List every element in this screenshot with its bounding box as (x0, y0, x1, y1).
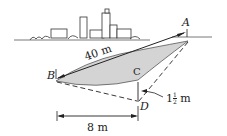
distance-8m-label: 8 m (87, 122, 108, 133)
lake-shape (56, 41, 188, 85)
diagram-canvas: A B C D 40 m 112 m 8 m (0, 0, 227, 136)
arrowhead-a-icon (177, 32, 186, 37)
arrowhead-left-icon (57, 114, 64, 118)
distance-cd-label: 112 m (166, 92, 191, 105)
diagram-drawing (0, 0, 227, 136)
point-b-label: B (47, 70, 55, 81)
city-skyline-icon (30, 9, 140, 40)
arrowhead-right-icon (131, 114, 138, 118)
point-a-label: A (182, 17, 190, 28)
point-c-label: C (133, 67, 141, 77)
point-d-label: D (140, 101, 149, 112)
